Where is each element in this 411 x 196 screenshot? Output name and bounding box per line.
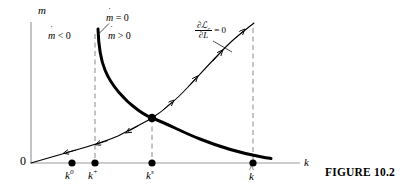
x-axis-label: k	[304, 157, 309, 168]
y-axis-label: m	[38, 5, 46, 16]
mdot-zero-relation: = 0	[116, 12, 129, 23]
curve-mdot-zero-locus	[98, 29, 271, 159]
equilibrium-point-marker	[148, 114, 156, 122]
tick-khat-wrap: ^k	[249, 171, 254, 182]
mdot-pos-symbol: ˙m	[108, 31, 115, 41]
arrow-thin-left-1	[98, 141, 108, 144]
dot-accent-icon: ˙	[50, 25, 53, 34]
axis-dot-kplus	[91, 159, 98, 166]
arrow-thin-left-3	[66, 150, 76, 153]
mdot-pos-relation: > 0	[118, 30, 131, 41]
axis-dot-ks	[148, 159, 155, 166]
foc-expression: ∂ℒc ∂L = 0	[195, 21, 226, 40]
annotation-mdot-negative: ˙m < 0	[48, 31, 71, 41]
hat-accent-icon: ^	[249, 164, 254, 174]
mdot-neg-symbol: ˙m	[48, 31, 55, 41]
figure-caption: FIGURE 10.2	[325, 166, 395, 178]
mdot-zero-symbol: ˙m	[106, 13, 113, 23]
arrow-thin-right-4	[236, 31, 243, 38]
arrow-thin-right-1	[163, 102, 172, 110]
tick-kplus-sup: +	[93, 168, 98, 176]
origin-label: 0	[20, 155, 26, 167]
tick-ks-sup: s	[151, 168, 154, 176]
axis-dot-k0	[68, 159, 75, 166]
foc-numerator: ∂ℒc	[195, 21, 212, 30]
tick-label-ks: ks	[146, 170, 154, 181]
annotation-foc: ∂ℒc ∂L = 0	[195, 20, 226, 40]
annotation-mdot-zero: ˙m = 0	[106, 13, 129, 23]
mdot-neg-relation: < 0	[58, 30, 71, 41]
dot-accent-icon: ˙	[110, 25, 113, 34]
tick-label-k0: k0	[65, 170, 73, 181]
figure-10-2: m k 0 ˙m = 0 ˙m < 0 ˙m > 0 ∂ℒc ∂L = 0 k0…	[0, 0, 411, 196]
curve-foc-locus	[31, 23, 254, 163]
arrow-thin-left-2	[128, 126, 138, 132]
tick-label-khat: ^k	[249, 171, 254, 182]
dot-accent-icon: ˙	[108, 7, 111, 16]
annotation-mdot-positive: ˙m > 0	[108, 31, 131, 41]
foc-fraction: ∂ℒc ∂L	[195, 21, 212, 40]
arrow-thin-right-2	[188, 78, 196, 87]
tick-k0-sup: 0	[70, 168, 74, 176]
foc-den-symbol: L	[203, 30, 208, 40]
tick-label-kplus: k+	[88, 170, 98, 181]
foc-relation: = 0	[214, 26, 226, 35]
arrow-thin-right-3	[213, 52, 221, 61]
